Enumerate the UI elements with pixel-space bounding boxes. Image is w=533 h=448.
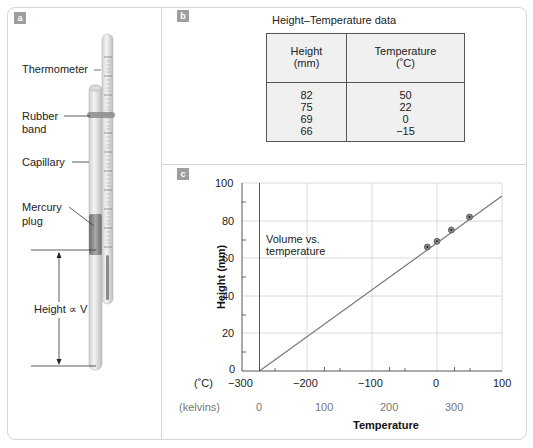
volume-temperature-chart xyxy=(0,0,533,448)
x-tick-c-neg100: −100 xyxy=(358,377,383,389)
x-tick-c-neg200: −200 xyxy=(293,377,318,389)
x-unit-celsius: (˚C) xyxy=(194,377,213,389)
data-points xyxy=(424,214,472,250)
y-tick-100: 100 xyxy=(215,177,233,189)
x-unit-kelvins: (kelvins) xyxy=(179,401,220,413)
x-tick-c-100: 100 xyxy=(493,377,511,389)
x-tick-k-200: 200 xyxy=(380,401,398,413)
x-tick-k-0: 0 xyxy=(256,401,262,413)
fit-line xyxy=(260,196,503,371)
x-tick-c-0: 0 xyxy=(433,377,439,389)
chart-annotation-line2: temperature xyxy=(266,245,325,258)
x-axis-title: Temperature xyxy=(353,419,419,431)
y-axis-title: Height (mm) xyxy=(215,222,227,332)
y-tick-0: 0 xyxy=(229,363,235,375)
x-tick-k-300: 300 xyxy=(445,401,463,413)
x-tick-c-neg300: −300 xyxy=(228,377,253,389)
x-tick-k-100: 100 xyxy=(315,401,333,413)
